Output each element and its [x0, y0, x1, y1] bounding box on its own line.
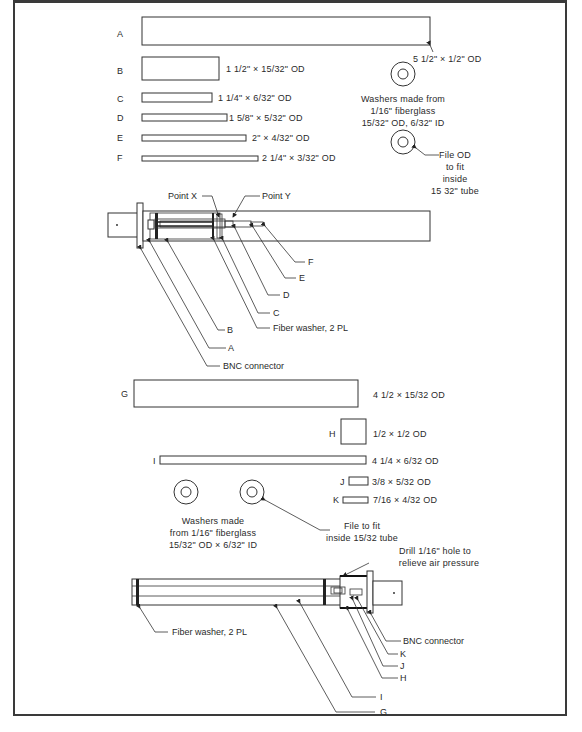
leader-fiber-washer	[214, 240, 270, 328]
part-d-label: D	[117, 113, 124, 123]
tube-c	[142, 93, 212, 102]
washer-note-line-3: 15/32" OD, 6/32" ID	[362, 118, 445, 128]
top-assembly	[108, 203, 430, 248]
bottom-washer-note-line-3: 15/32" OD × 6/32" ID	[169, 540, 257, 550]
leader-a	[430, 45, 433, 52]
tube-f	[142, 156, 258, 161]
file-od-leader	[416, 148, 439, 155]
bnc-flange	[137, 203, 143, 248]
part-h: H 1/2 × 1/2 OD	[329, 419, 427, 444]
part-g-label: G	[121, 389, 128, 399]
washer-note-line-1: Washers made from	[361, 94, 445, 104]
callout-bnc-connector: BNC connector	[223, 361, 284, 371]
callout-i: I	[380, 692, 383, 702]
callout-c: C	[273, 308, 280, 318]
leader-fiber-washer-bottom	[140, 608, 168, 632]
part-b: B 1 1/2" × 15/32" OD	[117, 57, 305, 80]
technical-drawing: A 5 1/2" × 1/2" OD B 1 1/2" × 15/32" OD …	[0, 0, 582, 732]
file-fit-leader	[265, 500, 330, 530]
part-e-dimension: 2" × 4/32" OD	[252, 133, 310, 143]
part-k: K 7/16 × 4/32 OD	[333, 495, 437, 505]
bottom-washer-note-line-1: Washers made	[182, 516, 245, 526]
callout-e: E	[299, 273, 305, 283]
part-i: I 4 1/4 × 6/32 OD	[153, 456, 439, 466]
drill-note-line-1: Drill 1/16" hole to	[399, 546, 471, 556]
bottom-file-note-line-1: File to fit	[344, 521, 381, 531]
leader-bnc-top	[141, 249, 220, 366]
part-g-dimension: 4 1/2 × 15/32 OD	[373, 390, 445, 400]
file-note-line-1: File OD	[439, 150, 471, 160]
part-f-dimension: 2 1/4" × 3/32" OD	[262, 153, 336, 163]
part-d: D 1 5/8" × 5/32" OD	[117, 113, 303, 123]
washer-top-1	[391, 62, 415, 86]
leader-i	[300, 603, 376, 697]
leader-bnc-bottom	[371, 614, 401, 641]
tube-i	[160, 456, 366, 464]
callout-bnc-connector-bottom: BNC connector	[403, 636, 464, 646]
callout-h: H	[400, 673, 407, 683]
part-b-label: B	[117, 66, 123, 76]
part-j: J 3/8 × 5/32 OD	[340, 477, 431, 487]
point-y-label: Point Y	[262, 191, 291, 201]
part-c-dimension: 1 1/4" × 6/32" OD	[218, 93, 292, 103]
tube-j	[349, 477, 368, 485]
tube-d	[142, 114, 227, 121]
callout-fiber-washer-bottom: Fiber washer, 2 PL	[172, 627, 247, 637]
drill-note-line-2: relieve air pressure	[399, 558, 480, 568]
bottom-washer-note-line-2: from 1/16" fiberglass	[170, 528, 257, 538]
bnc-flange-bottom	[367, 571, 373, 613]
tube-e	[142, 135, 246, 141]
part-i-label: I	[153, 456, 156, 466]
callout-g: G	[380, 707, 387, 717]
bnc-body-bottom	[373, 581, 402, 605]
bnc-body	[108, 213, 138, 237]
part-a-dimension: 5 1/2" × 1/2" OD	[413, 54, 482, 64]
part-j-dimension: 3/8 × 5/32 OD	[372, 477, 431, 487]
drill-leader	[343, 563, 369, 576]
part-c: C 1 1/4" × 6/32" OD	[117, 93, 292, 104]
bottom-file-note-line-2: inside 15/32 tube	[326, 533, 398, 543]
tube-a	[142, 17, 430, 45]
part-i-dimension: 4 1/4 × 6/32 OD	[372, 456, 439, 466]
part-e-label: E	[117, 133, 123, 143]
assembly-tube-h	[340, 576, 368, 608]
washer-bottom-1	[174, 480, 198, 504]
tube-h	[341, 419, 366, 444]
part-h-label: H	[329, 429, 336, 439]
part-g: G 4 1/2 × 15/32 OD	[121, 380, 445, 407]
part-d-dimension: 1 5/8" × 5/32" OD	[229, 113, 303, 123]
callout-k: K	[400, 649, 406, 659]
figure-caption	[14, 724, 574, 732]
washer-note-line-2: 1/16" fiberglass	[371, 106, 436, 116]
file-note-line-2: to fit	[446, 162, 465, 172]
point-x-label: Point X	[168, 191, 197, 201]
callout-b: B	[227, 325, 233, 335]
part-e: E 2" × 4/32" OD	[117, 133, 310, 143]
part-a-label: A	[117, 29, 123, 39]
part-k-label: K	[333, 495, 339, 505]
tube-k	[343, 497, 368, 503]
washer-bottom-2	[240, 480, 264, 504]
part-h-dimension: 1/2 × 1/2 OD	[373, 429, 427, 439]
callout-j: J	[400, 661, 405, 671]
callout-d: D	[283, 290, 290, 300]
assembly-tube-g	[132, 579, 372, 605]
part-j-label: J	[340, 477, 345, 487]
washer-top-2	[391, 130, 415, 154]
part-c-label: C	[117, 94, 124, 104]
callout-fiber-washer: Fiber washer, 2 PL	[273, 323, 348, 333]
leader-g	[277, 608, 375, 712]
callout-f: F	[308, 257, 314, 267]
callout-a: A	[228, 343, 234, 353]
part-b-dimension: 1 1/2" × 15/32" OD	[226, 64, 305, 74]
file-note-line-3: inside	[443, 174, 468, 184]
leader-b	[168, 242, 225, 330]
part-f-label: F	[117, 153, 123, 163]
file-note-line-4: 15 32" tube	[431, 186, 479, 196]
part-k-dimension: 7/16 × 4/32 OD	[373, 495, 437, 505]
tube-g	[134, 380, 358, 407]
part-f: F 2 1/4" × 3/32" OD	[117, 153, 336, 163]
tube-b	[142, 57, 219, 80]
